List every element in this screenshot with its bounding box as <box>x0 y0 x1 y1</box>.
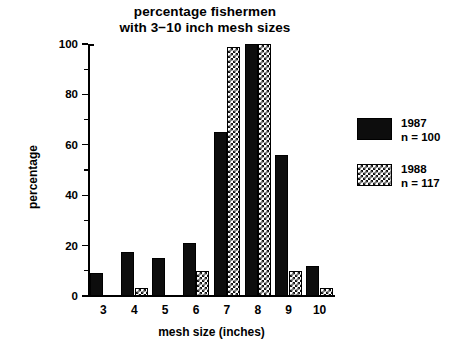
legend-label-1988: 1988 n = 117 <box>401 162 440 190</box>
legend-series-name-1987: 1987 <box>401 116 440 130</box>
bar-1987-mesh-3 <box>90 273 103 296</box>
y-axis-label: percentage <box>26 122 40 232</box>
legend-series-n-1988: n = 117 <box>401 176 440 190</box>
y-tick-label-60: 60 <box>46 139 78 150</box>
y-tick-label-0: 0 <box>46 291 78 302</box>
x-tick-label-7: 7 <box>224 303 231 317</box>
bar-1988-mesh-10 <box>320 288 333 296</box>
bar-1988-mesh-7 <box>227 47 240 296</box>
legend-label-1987: 1987 n = 100 <box>401 116 440 144</box>
y-tick-0 <box>82 295 88 296</box>
x-tick-label-4: 4 <box>131 303 138 317</box>
bar-1987-mesh-6 <box>183 243 196 296</box>
y-minor-tick-50 <box>84 169 88 170</box>
y-minor-tick-90 <box>84 69 88 70</box>
x-tick-label-6: 6 <box>193 303 200 317</box>
x-tick-label-9: 9 <box>285 303 292 317</box>
bar-1988-mesh-4 <box>135 288 148 296</box>
y-tick-label-20: 20 <box>46 240 78 251</box>
y-tick-60 <box>82 144 88 145</box>
y-axis-spine <box>88 44 90 296</box>
bar-1987-mesh-7 <box>214 132 227 296</box>
bar-1987-mesh-9 <box>275 155 288 296</box>
y-tick-label-40: 40 <box>46 190 78 201</box>
y-tick-40 <box>82 195 88 196</box>
bar-1987-mesh-4 <box>121 252 134 296</box>
y-tick-label-100: 100 <box>46 39 78 50</box>
y-tick-label-80: 80 <box>46 89 78 100</box>
y-axis-top-cap <box>88 44 94 46</box>
y-minor-tick-10 <box>84 270 88 271</box>
y-tick-100 <box>82 43 88 44</box>
x-tick-label-10: 10 <box>313 303 326 317</box>
legend-swatch-1988 <box>357 164 392 186</box>
legend-entry-1987: 1987 n = 100 <box>357 118 449 164</box>
bar-1987-mesh-8 <box>245 44 258 296</box>
x-tick-label-3: 3 <box>100 303 107 317</box>
bar-1987-mesh-5 <box>152 258 165 296</box>
y-tick-20 <box>82 245 88 246</box>
bar-1988-mesh-6 <box>196 271 209 296</box>
chart-figure: percentage fishermen with 3−10 inch mesh… <box>0 0 449 348</box>
y-minor-tick-70 <box>84 119 88 120</box>
x-tick-label-5: 5 <box>162 303 169 317</box>
x-axis-label: mesh size (inches) <box>88 325 335 339</box>
legend-swatch-1987 <box>357 118 392 140</box>
legend-series-name-1988: 1988 <box>401 162 440 176</box>
legend-series-n-1987: n = 100 <box>401 130 440 144</box>
bar-1988-mesh-9 <box>289 271 302 296</box>
chart-legend: 1987 n = 100 1988 n = 117 <box>357 118 449 210</box>
y-minor-tick-30 <box>84 220 88 221</box>
y-tick-80 <box>82 94 88 95</box>
bar-1988-mesh-8 <box>258 44 271 296</box>
x-tick-label-8: 8 <box>254 303 261 317</box>
bar-1987-mesh-10 <box>306 266 319 296</box>
legend-entry-1988: 1988 n = 117 <box>357 164 449 210</box>
